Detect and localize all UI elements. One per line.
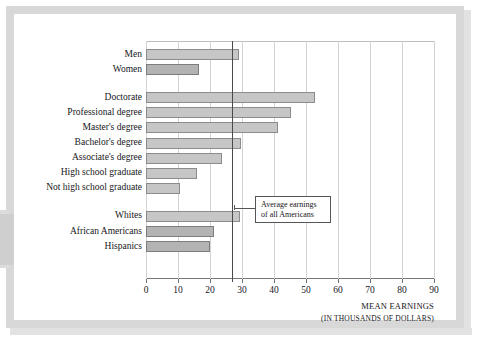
frame-right-shadow (464, 10, 471, 332)
category-label-high-school-graduate: High school graduate (14, 167, 146, 178)
category-label-professional-degree: Professional degree (14, 107, 146, 118)
chart-canvas: MenWomenDoctorateProfessional degreeMast… (14, 14, 456, 320)
tick-20 (210, 279, 211, 283)
tick-50 (306, 279, 307, 283)
x-axis-tick-labels: 0102030405060708090 (146, 285, 434, 299)
bar-men (146, 49, 239, 60)
tick-reference-average (232, 279, 233, 282)
frame-right-edge (456, 6, 464, 328)
tick-90 (434, 279, 435, 283)
tick-0 (146, 279, 147, 283)
annotation-line-1: Average earnings (261, 200, 325, 210)
tick-10 (178, 279, 179, 283)
tick-label-50: 50 (301, 285, 311, 295)
category-label-hispanics: Hispanics (14, 241, 146, 252)
bar-high-school-graduate (146, 168, 197, 179)
tick-30 (242, 279, 243, 283)
screenshot-page: MenWomenDoctorateProfessional degreeMast… (0, 0, 477, 358)
bar-bachelor-s-degree (146, 138, 241, 149)
average-earnings-annotation: Average earnings of all Americans (255, 196, 331, 223)
frame-left-edge (6, 6, 14, 328)
category-label-doctorate: Doctorate (14, 92, 146, 103)
tick-label-80: 80 (397, 285, 407, 295)
category-label-african-americans: African Americans (14, 226, 146, 237)
bar-whites (146, 211, 240, 222)
annotation-leader-line (234, 208, 256, 209)
bar-women (146, 64, 199, 75)
frame-top-edge (6, 6, 464, 14)
tick-40 (274, 279, 275, 283)
tick-label-0: 0 (144, 285, 149, 295)
annotation-line-2: of all Americans (261, 210, 325, 220)
x-axis-title: MEAN EARNINGS (214, 301, 434, 311)
mean-earnings-bar-chart: MenWomenDoctorateProfessional degreeMast… (14, 14, 456, 320)
tick-label-90: 90 (429, 285, 439, 295)
bar-hispanics (146, 241, 210, 252)
tick-label-60: 60 (333, 285, 343, 295)
gridline-90 (434, 41, 435, 279)
tick-label-40: 40 (269, 285, 279, 295)
bar-professional-degree (146, 107, 291, 118)
category-label-men: Men (14, 49, 146, 60)
tick-70 (370, 279, 371, 283)
category-label-women: Women (14, 64, 146, 75)
category-label-bachelor-s-degree: Bachelor's degree (14, 137, 146, 148)
category-label-not-high-school-graduate: Not high school graduate (14, 182, 146, 193)
category-label-whites: Whites (14, 210, 146, 221)
category-label-master-s-degree: Master's degree (14, 122, 146, 133)
frame-bottom-shadow (10, 328, 472, 335)
bar-not-high-school-graduate (146, 183, 180, 194)
bar-african-americans (146, 226, 214, 237)
bar-master-s-degree (146, 122, 278, 133)
average-earnings-reference-line (232, 41, 233, 279)
category-label-associate-s-degree: Associate's degree (14, 152, 146, 163)
category-label-column: MenWomenDoctorateProfessional degreeMast… (14, 41, 146, 279)
tick-label-70: 70 (365, 285, 375, 295)
tick-60 (338, 279, 339, 283)
bar-series (146, 41, 434, 279)
tick-label-30: 30 (237, 285, 247, 295)
bar-associate-s-degree (146, 153, 222, 164)
x-axis-subtitle: (IN THOUSANDS OF DOLLARS) (194, 314, 434, 323)
tick-label-10: 10 (173, 285, 183, 295)
tick-label-20: 20 (205, 285, 215, 295)
tick-80 (402, 279, 403, 283)
bar-doctorate (146, 92, 315, 103)
plot-area (146, 41, 434, 279)
